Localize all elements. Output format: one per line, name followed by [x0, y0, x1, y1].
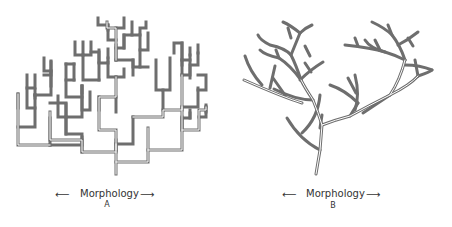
right-arrow-icon: ⟶	[140, 189, 154, 200]
morphology-label-b: Morphology	[306, 188, 362, 199]
tree-a	[18, 18, 206, 174]
left-arrow-icon: ⟵	[55, 189, 69, 200]
tree-b	[244, 22, 432, 174]
right-arrow-icon: ⟶	[366, 189, 380, 200]
morphology-label-a: Morphology	[80, 188, 136, 199]
panel-letter-b: B	[326, 201, 340, 210]
left-arrow-icon: ⟵	[282, 189, 296, 200]
panel-letter-a: A	[100, 200, 114, 209]
